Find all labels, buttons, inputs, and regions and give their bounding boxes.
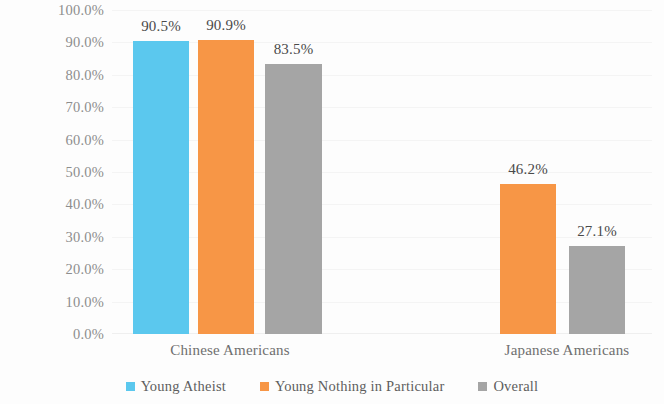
- gridline: [112, 75, 652, 76]
- bar-chinese-young-nothing-in-particular[interactable]: [198, 40, 254, 335]
- bar-value-label: 90.9%: [193, 17, 259, 34]
- y-axis-tick: 0.0%: [0, 326, 104, 343]
- plot-area: 90.5% 90.9% 83.5% 46.2% 27.1%: [112, 10, 652, 334]
- y-axis-tick: 100.0%: [0, 2, 104, 19]
- y-axis: 100.0% 90.0% 80.0% 70.0% 60.0% 50.0% 40.…: [0, 10, 104, 334]
- legend-swatch-icon: [478, 382, 487, 391]
- bar-value-label: 90.5%: [128, 18, 194, 35]
- legend-label: Young Nothing in Particular: [275, 378, 444, 395]
- bar-japanese-overall[interactable]: [569, 246, 625, 334]
- x-axis-category-chinese-americans: Chinese Americans: [150, 342, 310, 359]
- bar-chinese-overall[interactable]: [265, 64, 322, 335]
- gridline: [112, 172, 652, 173]
- gridline: [112, 140, 652, 141]
- legend-item-young-atheist[interactable]: Young Atheist: [126, 378, 226, 395]
- gridline: [112, 10, 652, 11]
- bar-value-label: 83.5%: [260, 41, 327, 58]
- gridline: [112, 204, 652, 205]
- y-axis-tick: 30.0%: [0, 228, 104, 245]
- y-axis-tick: 60.0%: [0, 131, 104, 148]
- gridline: [112, 107, 652, 108]
- y-axis-tick: 90.0%: [0, 34, 104, 51]
- legend-swatch-icon: [126, 382, 135, 391]
- y-axis-tick: 80.0%: [0, 66, 104, 83]
- bar-japanese-young-nothing-in-particular[interactable]: [500, 184, 556, 334]
- legend-item-overall[interactable]: Overall: [478, 378, 538, 395]
- legend-label: Young Atheist: [141, 378, 226, 395]
- bar-value-label: 46.2%: [495, 161, 561, 178]
- legend-swatch-icon: [260, 382, 269, 391]
- y-axis-tick: 10.0%: [0, 293, 104, 310]
- legend-label: Overall: [493, 378, 538, 395]
- y-axis-tick: 50.0%: [0, 164, 104, 181]
- legend-item-young-nothing-in-particular[interactable]: Young Nothing in Particular: [260, 378, 444, 395]
- y-axis-tick: 20.0%: [0, 261, 104, 278]
- y-axis-tick: 40.0%: [0, 196, 104, 213]
- legend: Young Atheist Young Nothing in Particula…: [0, 378, 664, 395]
- bar-value-label: 27.1%: [564, 223, 630, 240]
- gridline: [112, 42, 652, 43]
- bar-chinese-young-atheist[interactable]: [133, 41, 189, 334]
- bar-chart: 100.0% 90.0% 80.0% 70.0% 60.0% 50.0% 40.…: [0, 0, 664, 404]
- y-axis-tick: 70.0%: [0, 99, 104, 116]
- x-axis-category-japanese-americans: Japanese Americans: [482, 342, 652, 359]
